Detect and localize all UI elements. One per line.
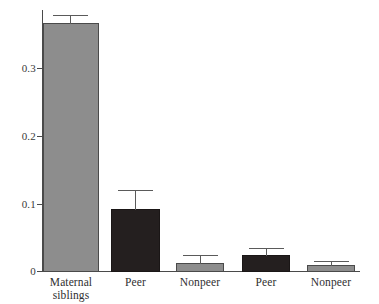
x-label-peer-2: Peer [231, 276, 301, 289]
error-bar-stem-1 [70, 15, 71, 24]
bar-chart: 0 0.1 0.2 0.3 Maternal siblings Peer Non… [0, 0, 379, 304]
y-tick-3 [37, 68, 42, 69]
y-tick-2 [37, 136, 42, 137]
y-tick-label-1: 0.1 [22, 199, 36, 210]
bar-maternal-siblings [43, 23, 99, 272]
bar-nonpeer-1 [176, 263, 224, 272]
error-bar-cap-4 [249, 248, 284, 249]
error-bar-stem-4 [266, 248, 267, 256]
y-tick-label-3: 0.3 [22, 63, 36, 74]
error-bar-cap-5 [314, 261, 349, 262]
error-bar-cap-2 [118, 190, 153, 191]
y-tick-0 [37, 271, 42, 272]
bar-peer-1 [111, 209, 160, 272]
error-bar-stem-2 [135, 190, 136, 210]
x-label-nonpeer-1: Nonpeer [165, 276, 235, 289]
bar-peer-2 [242, 255, 290, 272]
error-bar-cap-3 [183, 255, 218, 256]
error-bar-stem-3 [200, 255, 201, 264]
error-bar-cap-1 [53, 15, 88, 16]
x-label-peer-1: Peer [101, 276, 170, 289]
y-tick-label-2: 0.2 [22, 131, 36, 142]
bar-nonpeer-2 [307, 265, 355, 272]
y-tick-1 [37, 204, 42, 205]
x-label-nonpeer-2: Nonpeer [296, 276, 366, 289]
x-label-maternal-siblings: Maternal siblings [32, 276, 110, 301]
